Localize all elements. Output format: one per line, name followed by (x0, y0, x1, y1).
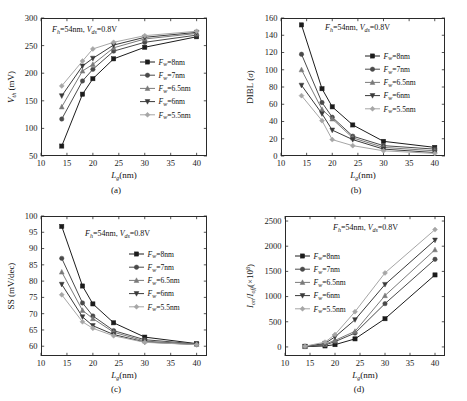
x-tick-label: 20 (331, 358, 340, 368)
y-tick-label: 0 (273, 151, 277, 161)
figure-grid: 1015202530354050100150200250300Fh=54nm, … (0, 0, 467, 401)
panel-a: 1015202530354050100150200250300Fh=54nm, … (0, 0, 233, 200)
data-point (320, 87, 324, 91)
legend-b: Fw=8nmFw=7nmFw=6.5nmFw=6nmFw=5.5nm (365, 52, 416, 114)
chart-b: 10152025303540020406080100120140160Fh=54… (233, 0, 467, 200)
y-tick-label: 65 (29, 325, 38, 335)
data-point (80, 284, 84, 288)
legend-a: Fw=8nmFw=7nmFw=6.5nmFw=6nmFw=5.5nm (140, 58, 191, 121)
legend-marker (134, 304, 139, 309)
y-tick-label: 80 (29, 276, 38, 286)
series-1-b (299, 23, 436, 150)
legend-label-1: Fw=8nm (158, 58, 186, 68)
data-point (91, 67, 95, 71)
legend-label-4: Fw=6nm (147, 289, 175, 299)
x-tick-label: 10 (277, 158, 286, 168)
series-group-b (299, 23, 437, 156)
x-tick-label: 35 (405, 158, 414, 168)
series-5-c (59, 292, 199, 347)
legend-label-3: Fw=6.5nm (158, 84, 191, 94)
panel-caption-d: (d) (354, 384, 365, 394)
legend-label-2: Fw=7nm (158, 71, 186, 81)
y-tick-label: 1500 (265, 266, 282, 276)
data-point (112, 57, 116, 61)
data-point (299, 67, 304, 72)
legend-label-4: Fw=6nm (313, 291, 341, 301)
data-point (330, 137, 335, 142)
x-tick-label: 30 (141, 358, 150, 368)
x-tick-label: 20 (89, 158, 98, 168)
x-tick-label: 40 (192, 158, 201, 168)
y-tick-label: 50 (29, 151, 38, 161)
legend-label-3: Fw=6.5nm (313, 278, 346, 288)
legend-marker (300, 267, 304, 271)
x-tick-label: 25 (115, 358, 124, 368)
legend-label-5: Fw=5.5nm (158, 111, 191, 121)
legend-label-1: Fw=8nm (383, 52, 411, 62)
y-axis-title-b: DIBL (σ) (245, 70, 255, 103)
x-tick-label: 20 (328, 158, 337, 168)
data-point (90, 56, 95, 61)
series-2-c (60, 256, 199, 346)
y-tick-label: 1000 (265, 291, 282, 301)
x-tick-label: 25 (356, 358, 365, 368)
series-group-c (59, 224, 199, 347)
y-tick-label: 60 (269, 99, 278, 109)
data-point (353, 337, 357, 341)
data-point (433, 257, 437, 261)
data-point (433, 273, 437, 277)
legend-marker (134, 265, 138, 269)
data-point (80, 301, 84, 305)
x-tick-label: 40 (192, 358, 201, 368)
data-point (60, 117, 64, 121)
y-tick-label: 95 (29, 227, 38, 237)
chart-a: 1015202530354050100150200250300Fh=54nm, … (0, 0, 233, 200)
x-axis-title-d: Lg(nm) (351, 370, 378, 381)
data-point (299, 52, 303, 56)
axes-d: 1015202530354005001000150020002500 (265, 216, 446, 368)
data-point (143, 45, 147, 49)
x-tick-label: 10 (37, 358, 46, 368)
x-tick-label: 30 (379, 158, 388, 168)
annotation-c: Fh=54nm, Vds=0.8V (84, 229, 150, 239)
data-point (60, 256, 64, 260)
legend-marker (370, 106, 375, 111)
y-tick-label: 20 (269, 134, 278, 144)
x-tick-label: 25 (354, 158, 363, 168)
y-axis-title-c: SS (mV/dec) (6, 263, 16, 310)
y-tick-label: 120 (265, 47, 278, 57)
y-tick-label: 70 (29, 309, 38, 319)
legend-label-5: Fw=5.5nm (383, 105, 416, 115)
series-5-d (303, 227, 438, 349)
x-tick-label: 15 (302, 158, 311, 168)
x-tick-label: 40 (431, 158, 440, 168)
x-tick-label: 25 (115, 158, 124, 168)
legend-label-3: Fw=6.5nm (147, 276, 180, 286)
legend-marker (145, 73, 149, 77)
y-tick-label: 250 (25, 41, 38, 51)
data-point (60, 144, 64, 148)
y-tick-label: 500 (269, 317, 282, 327)
data-point (91, 77, 95, 81)
legend-marker (145, 112, 150, 117)
x-tick-label: 10 (37, 158, 46, 168)
legend-label-4: Fw=6nm (383, 91, 411, 101)
legend-label-2: Fw=7nm (313, 265, 341, 275)
panel-c: 101520253035406065707580859095100Fh=54nm… (0, 200, 233, 401)
y-tick-label: 100 (25, 123, 38, 133)
legend-label-5: Fw=5.5nm (147, 303, 180, 313)
data-point (59, 269, 64, 274)
legend-c: Fw=8nmFw=7nmFw=6.5nmFw=6nmFw=5.5nm (129, 250, 180, 313)
axes-b: 10152025303540020406080100120140160 (265, 13, 445, 168)
x-tick-label: 15 (63, 358, 72, 368)
y-tick-label: 0 (277, 342, 281, 352)
y-tick-label: 2500 (265, 216, 282, 226)
panel-caption-c: (c) (111, 384, 121, 394)
legend-label-3: Fw=6.5nm (383, 78, 416, 88)
y-tick-label: 60 (29, 341, 38, 351)
data-point (112, 321, 116, 325)
y-tick-label: 100 (265, 65, 278, 75)
data-point (330, 105, 334, 109)
legend-label-5: Fw=5.5nm (313, 305, 346, 315)
y-tick-label: 75 (29, 292, 38, 302)
